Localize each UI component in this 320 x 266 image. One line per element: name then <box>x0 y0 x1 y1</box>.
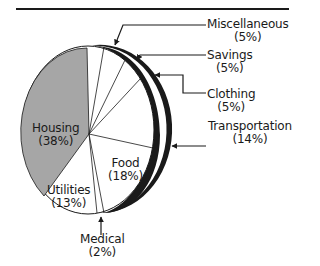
label-savings-pct: (5%) <box>207 62 252 75</box>
label-clothing: Clothing (5%) <box>207 88 255 114</box>
label-food: Food (18%) <box>108 157 143 183</box>
label-transportation-pct: (14%) <box>208 133 292 146</box>
label-medical-pct: (2%) <box>80 246 125 259</box>
label-medical: Medical (2%) <box>80 233 125 259</box>
label-clothing-pct: (5%) <box>207 101 255 114</box>
leader-miscellaneous <box>115 25 206 45</box>
label-utilities: Utilities (13%) <box>47 184 90 210</box>
label-housing: Housing (38%) <box>32 122 79 148</box>
label-housing-pct: (38%) <box>32 135 79 148</box>
label-savings: Savings (5%) <box>207 49 252 75</box>
label-transportation: Transportation (14%) <box>208 120 292 146</box>
label-miscellaneous: Miscellaneous (5%) <box>207 18 289 44</box>
label-utilities-pct: (13%) <box>47 197 90 210</box>
label-miscellaneous-pct: (5%) <box>207 31 289 44</box>
leader-savings <box>137 55 206 60</box>
label-food-pct: (18%) <box>108 170 143 183</box>
